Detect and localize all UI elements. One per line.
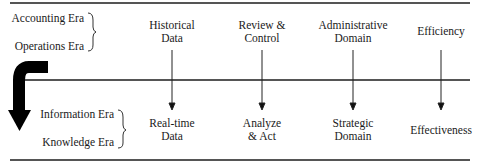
from-label-efficiency: Efficiency [401,25,481,38]
transition-arrow-icon [8,67,48,131]
era-label-information: Information Era [40,108,114,121]
era-label-operations: Operations Era [15,40,84,53]
from-label-historical-data: Historical Data [132,19,212,45]
to-label-effectiveness: Effectiveness [396,124,482,137]
to-label-analyze-act: Analyze & Act [222,117,302,143]
from-label-review-control: Review & Control [222,19,302,45]
from-label-administrative-domain: Administrative Domain [303,19,403,45]
era-label-knowledge: Knowledge Era [42,136,114,149]
era-label-accounting: Accounting Era [12,12,85,25]
top-brace-icon [88,13,96,51]
to-label-realtime-data: Real-time Data [132,117,212,143]
to-label-strategic-domain: Strategic Domain [313,117,393,143]
bottom-brace-icon [118,110,126,148]
arrow-icon [169,50,444,110]
